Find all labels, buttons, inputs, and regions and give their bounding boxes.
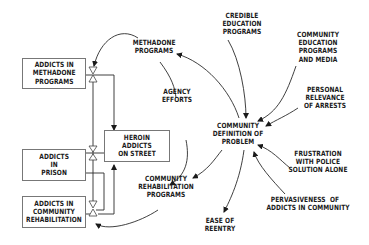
- var-methadone-programs: METHADONE PROGRAMS: [133, 39, 176, 55]
- var-frustration-with-police: FRUSTRATION WITH POLICE SOLUTION ALONE: [288, 150, 347, 175]
- pipe-rehab-to-street: [98, 165, 114, 214]
- link-credible-to-definition: [228, 40, 246, 118]
- link-definition-to-methadone: [177, 54, 239, 118]
- stock-label: HEROIN ADDICTS ON STREET: [118, 134, 156, 159]
- var-ease-of-reentry: EASE OF REENTRY: [202, 217, 238, 233]
- stock-label: ADDICTS IN METHADONE PROGRAMS: [32, 61, 75, 86]
- link-definition-to-reentry: [224, 150, 244, 212]
- link-definition-to-rehab: [193, 150, 222, 178]
- var-credible-education-programs: CREDIBLE EDUCATION PROGRAMS: [221, 12, 264, 37]
- var-community-rehab-programs: COMMUNITY REHABILITATION PROGRAMS: [138, 175, 194, 200]
- stock-label: ADDICTS IN COMMUNITY REHABILITATION: [26, 200, 82, 225]
- causal-diagram: ADDICTS IN METHADONE PROGRAMS HEROIN ADD…: [0, 0, 369, 245]
- stock-label: ADDICTS IN PRISON: [39, 153, 69, 178]
- stock-addicts-in-prison: ADDICTS IN PRISON: [22, 149, 86, 181]
- link-rehab-programs-to-valve: [96, 210, 158, 227]
- var-community-education-media: COMMUNITY EDUCATION PROGRAMS AND MEDIA: [295, 31, 341, 64]
- link-pervasiveness-to-definition: [254, 152, 285, 194]
- stock-heroin-addicts-on-street: HEROIN ADDICTS ON STREET: [104, 130, 170, 162]
- stock-addicts-in-community-rehab: ADDICTS IN COMMUNITY REHABILITATION: [22, 196, 86, 228]
- link-relevance-to-definition: [266, 108, 298, 126]
- var-agency-efforts: AGENCY EFFORTS: [159, 88, 195, 104]
- var-community-definition-of-problem: COMMUNITY DEFINITION OF PROBLEM: [213, 122, 264, 147]
- var-pervasiveness-of-addicts: PERVASIVENESS OF ADDICTS IN COMMUNITY: [266, 196, 343, 212]
- link-methadone-programs-to-valve: [94, 34, 138, 66]
- link-frustration-to-definition: [258, 145, 290, 168]
- valve-methadone-icon: [89, 67, 97, 82]
- var-personal-relevance-of-arrests: PERSONAL RELEVANCE OF ARRESTS: [301, 86, 349, 111]
- stock-addicts-in-methadone: ADDICTS IN METHADONE PROGRAMS: [22, 58, 86, 89]
- pipe-methadone-out: [86, 75, 114, 130]
- valve-rehab-icon: [89, 201, 97, 216]
